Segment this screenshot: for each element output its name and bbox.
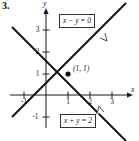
y-axis-arrow-icon	[43, 8, 48, 14]
y-tick-label-2: 2	[33, 47, 42, 56]
y-tick-label-3: 3	[33, 25, 42, 34]
y-axis-label: y	[43, 0, 47, 8]
callout-line-x-minus-y: x − y = 0	[59, 14, 95, 28]
y-tick-label-1: 1	[33, 69, 42, 78]
x-tick-label-3: 3	[107, 97, 117, 106]
callout-tail-top	[100, 33, 107, 41]
y-tick-label-neg1: -1	[29, 112, 42, 121]
x-axis-label: x	[131, 85, 135, 94]
x-tick-label-neg1: -1	[18, 97, 30, 106]
callout-tail-bottom	[97, 106, 104, 114]
x-tick-label-1: 1	[63, 97, 73, 106]
callout-line-x-plus-y: x + y = 2	[60, 114, 96, 128]
intersection-point-label: (1, 1)	[73, 64, 89, 73]
x-tick-label-2: 2	[85, 97, 95, 106]
intersection-point	[65, 71, 70, 76]
